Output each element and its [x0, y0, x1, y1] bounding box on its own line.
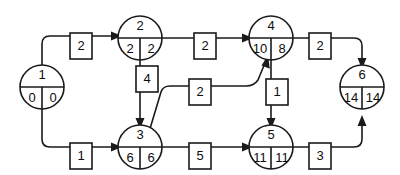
node-6[interactable]: 6 14 14 [340, 65, 384, 109]
node-3-id: 3 [136, 127, 143, 142]
node-2[interactable]: 2 2 2 [118, 16, 162, 60]
edge-5-6-arrowhead [358, 115, 367, 126]
node-4[interactable]: 4 10 8 [249, 16, 293, 60]
edge-label-3-4-text: 2 [196, 84, 203, 99]
node-3[interactable]: 3 6 6 [118, 125, 162, 169]
edge-label-3-4: 2 [189, 79, 211, 105]
edge-label-3-5-text: 5 [196, 148, 203, 163]
node-1-id: 1 [38, 67, 45, 82]
edge-label-4-5: 1 [266, 79, 288, 105]
node-6-id: 6 [358, 67, 365, 82]
node-3-earliest: 6 [126, 150, 133, 165]
edge-label-3-5: 5 [189, 143, 211, 169]
node-2-id: 2 [136, 18, 143, 33]
edge-label-2-3-text: 4 [143, 71, 150, 86]
node-2-earliest: 2 [126, 41, 133, 56]
network-diagram-canvas: 2 1 2 4 2 5 2 1 [0, 0, 400, 175]
node-1[interactable]: 1 0 0 [20, 65, 64, 109]
edge-label-2-4-text: 2 [201, 38, 208, 53]
node-2-latest: 2 [147, 41, 154, 56]
network-diagram-svg: 2 1 2 4 2 5 2 1 [0, 0, 400, 175]
node-6-latest: 14 [366, 90, 380, 105]
node-5-id: 5 [267, 127, 274, 142]
node-1-earliest: 0 [28, 90, 35, 105]
node-3-latest: 6 [147, 150, 154, 165]
node-6-earliest: 14 [344, 90, 358, 105]
edge-label-1-2-text: 2 [77, 38, 84, 53]
node-5-latest: 11 [275, 150, 289, 165]
edge-label-1-2: 2 [70, 33, 92, 59]
edge-label-1-3: 1 [70, 143, 92, 169]
edge-label-5-6: 3 [309, 143, 331, 169]
node-4-id: 4 [267, 18, 274, 33]
edge-label-4-5-text: 1 [273, 84, 280, 99]
edge-label-4-6-text: 2 [316, 38, 323, 53]
node-5-earliest: 11 [253, 150, 267, 165]
edge-5-6 [289, 115, 367, 147]
node-5[interactable]: 5 11 11 [249, 125, 293, 169]
edge-label-2-4: 2 [194, 33, 216, 59]
node-4-latest: 8 [278, 41, 285, 56]
edge-1-3-path [42, 105, 113, 147]
edge-label-2-3: 4 [136, 66, 158, 92]
node-1-latest: 0 [49, 90, 56, 105]
edge-label-1-3-text: 1 [77, 148, 84, 163]
edge-label-5-6-text: 3 [316, 148, 323, 163]
edge-label-4-6: 2 [309, 33, 331, 59]
node-4-earliest: 10 [253, 41, 267, 56]
